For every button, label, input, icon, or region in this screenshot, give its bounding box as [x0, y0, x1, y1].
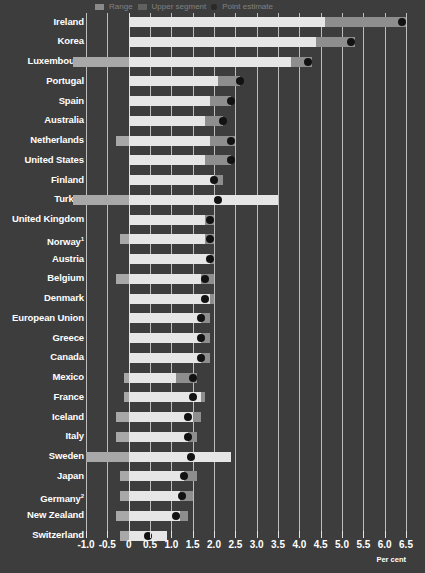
bar-light-segment [129, 294, 210, 304]
bar-row[interactable] [86, 452, 406, 462]
axis-tick [107, 531, 108, 538]
bar-row[interactable] [86, 136, 406, 146]
bar-row[interactable] [86, 471, 406, 481]
category-label: European Union [0, 313, 84, 323]
bar-row[interactable] [86, 274, 406, 284]
bar-light-segment [129, 17, 325, 27]
point-estimate-marker[interactable] [206, 255, 214, 263]
bar-light-segment [129, 195, 278, 205]
point-estimate-marker[interactable] [189, 393, 197, 401]
bar-light-segment [129, 175, 214, 185]
bar-row[interactable] [86, 412, 406, 422]
value-axis: Per cent -1.0-0.500.51.01.52.02.53.03.54… [86, 531, 406, 573]
bar-negative-segment [86, 452, 129, 462]
bar-dark-segment [201, 392, 205, 402]
chart-container: Range Upper segment Point estimate Irela… [0, 0, 425, 573]
bar-row[interactable] [86, 294, 406, 304]
bar-row[interactable] [86, 333, 406, 343]
bar-negative-segment [120, 471, 129, 481]
point-estimate-marker[interactable] [347, 38, 355, 46]
bars-and-grid [86, 13, 406, 531]
point-estimate-marker[interactable] [219, 117, 227, 125]
category-label: Denmark [0, 293, 84, 303]
legend-dot-icon [211, 4, 217, 10]
bar-row[interactable] [86, 76, 406, 86]
bar-row[interactable] [86, 392, 406, 402]
point-estimate-marker[interactable] [187, 453, 195, 461]
bar-light-segment [129, 116, 206, 126]
axis-tick [406, 531, 407, 538]
bar-row[interactable] [86, 234, 406, 244]
bar-row[interactable] [86, 432, 406, 442]
axis-tick [193, 531, 194, 538]
bar-row[interactable] [86, 353, 406, 363]
bar-negative-segment [120, 234, 129, 244]
point-estimate-marker[interactable] [206, 216, 214, 224]
bar-light-segment [129, 57, 291, 67]
bar-row[interactable] [86, 37, 406, 47]
category-label: Italy [0, 431, 84, 441]
bar-row[interactable] [86, 254, 406, 264]
bar-row[interactable] [86, 96, 406, 106]
bar-light-segment [129, 136, 210, 146]
point-estimate-marker[interactable] [214, 196, 222, 204]
bar-row[interactable] [86, 491, 406, 501]
point-estimate-marker[interactable] [227, 156, 235, 164]
category-label: France [0, 392, 84, 402]
category-label: Turkey [0, 194, 84, 204]
category-label: Belgium [0, 273, 84, 283]
bar-negative-segment [116, 412, 129, 422]
point-estimate-marker[interactable] [206, 235, 214, 243]
category-label: Germany2 [0, 491, 84, 504]
category-label: Luxembourg [0, 56, 84, 66]
bar-light-segment [129, 215, 206, 225]
bar-row[interactable] [86, 155, 406, 165]
point-estimate-marker[interactable] [227, 97, 235, 105]
axis-tick [257, 531, 258, 538]
point-estimate-marker[interactable] [172, 512, 180, 520]
bar-row[interactable] [86, 215, 406, 225]
bar-dark-segment [210, 294, 214, 304]
legend-dark-swatch-icon [138, 4, 147, 10]
bar-row[interactable] [86, 57, 406, 67]
point-estimate-marker[interactable] [201, 295, 209, 303]
bar-row[interactable] [86, 511, 406, 521]
point-estimate-marker[interactable] [189, 374, 197, 382]
bar-row[interactable] [86, 313, 406, 323]
category-label: Mexico [0, 372, 84, 382]
bar-row[interactable] [86, 195, 406, 205]
point-estimate-marker[interactable] [304, 58, 312, 66]
bar-row[interactable] [86, 373, 406, 383]
bar-light-segment [129, 491, 180, 501]
axis-tick [342, 531, 343, 538]
legend-item-label-1: Upper segment [152, 2, 207, 11]
category-label: Finland [0, 175, 84, 185]
bar-row[interactable] [86, 175, 406, 185]
point-estimate-marker[interactable] [197, 354, 205, 362]
point-estimate-marker[interactable] [210, 176, 218, 184]
bar-light-segment [129, 353, 202, 363]
bar-light-segment [129, 313, 202, 323]
point-estimate-marker[interactable] [236, 77, 244, 85]
legend-item-label-0: Range [109, 2, 133, 11]
point-estimate-marker[interactable] [398, 18, 406, 26]
plot-area: IrelandKoreaLuxembourgPortugalSpainAustr… [0, 13, 425, 573]
bar-row[interactable] [86, 17, 406, 27]
axis-tick [235, 531, 236, 538]
axis-tick [214, 531, 215, 538]
point-estimate-marker[interactable] [227, 137, 235, 145]
point-estimate-marker[interactable] [178, 492, 186, 500]
axis-tick [171, 531, 172, 538]
axis-tick-label: 6.5 [391, 539, 421, 550]
bar-negative-segment [120, 491, 129, 501]
category-label: Portugal [0, 76, 84, 86]
category-axis-labels: IrelandKoreaLuxembourgPortugalSpainAustr… [0, 13, 84, 531]
bar-light-segment [129, 333, 202, 343]
axis-tick [86, 531, 87, 538]
bar-light-segment [129, 37, 317, 47]
bar-row[interactable] [86, 116, 406, 126]
axis-tick [385, 531, 386, 538]
bar-light-segment [129, 471, 184, 481]
category-label: Korea [0, 36, 84, 46]
axis-title: Per cent [376, 555, 406, 564]
